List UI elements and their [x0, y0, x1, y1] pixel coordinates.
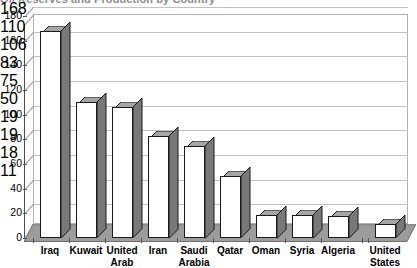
bar-side-face — [396, 215, 405, 238]
bar-column — [375, 215, 405, 238]
x-axis-category-label: United States — [363, 245, 407, 268]
x-axis-tick-mark — [249, 238, 250, 243]
x-axis-tick-mark — [105, 238, 106, 243]
bar-top-face — [76, 93, 97, 102]
bar-front-face — [375, 224, 396, 238]
bar-side-face — [349, 207, 358, 238]
x-axis-tick-mark — [368, 238, 369, 243]
bar-side-face — [205, 137, 214, 239]
bar-front-face — [256, 215, 277, 238]
bar-side-face — [241, 167, 250, 238]
bar-column — [328, 207, 358, 238]
bar-column — [220, 167, 250, 238]
bar-side-face — [133, 98, 142, 238]
x-axis-tick-mark — [213, 238, 214, 243]
bar-column — [112, 98, 142, 238]
bar-front-face — [184, 146, 205, 239]
bar-column — [40, 22, 70, 238]
bar-top-face — [328, 207, 349, 216]
bar-column — [148, 127, 178, 238]
bar-column — [76, 93, 106, 238]
bar-front-face — [220, 176, 241, 238]
bar-side-face — [61, 22, 70, 238]
bar-top-face — [256, 206, 277, 215]
bar-side-face — [277, 206, 286, 238]
x-axis-category-label: Algeria — [314, 245, 362, 257]
bar-column — [256, 206, 286, 238]
bar-top-face — [112, 98, 133, 107]
bar-side-face — [169, 127, 178, 238]
bar-front-face — [328, 216, 349, 238]
bar-side-face — [313, 206, 322, 238]
bar-top-face — [292, 206, 313, 215]
chart-container: Oil Reserves and Production by Country 0… — [0, 0, 417, 268]
bar-front-face — [148, 136, 169, 238]
bar-top-face — [375, 215, 396, 224]
x-axis-labels: IraqKuwaitUnited ArabIranSaudi ArabiaQat… — [0, 240, 417, 268]
bar-side-face — [97, 93, 106, 238]
bar-front-face — [112, 107, 133, 238]
bar-front-face — [40, 31, 61, 238]
bar-front-face — [76, 102, 97, 238]
x-axis-tick-mark — [285, 238, 286, 243]
bar-top-face — [148, 127, 169, 136]
bar-column — [292, 206, 322, 238]
x-axis-tick-mark — [362, 238, 363, 243]
bar-column — [184, 137, 214, 239]
bar-series: 16811010683755019191811 — [0, 0, 417, 268]
bar-top-face — [184, 137, 205, 146]
bar-top-face — [40, 22, 61, 31]
bar-front-face — [292, 215, 313, 238]
bar-value-label: 168 — [0, 0, 417, 18]
x-axis-tick-mark — [69, 238, 70, 243]
x-axis-tick-mark — [141, 238, 142, 243]
x-axis-tick-mark — [177, 238, 178, 243]
x-axis-tick-mark — [33, 238, 34, 243]
bar-top-face — [220, 167, 241, 176]
x-axis-tick-mark — [321, 238, 322, 243]
